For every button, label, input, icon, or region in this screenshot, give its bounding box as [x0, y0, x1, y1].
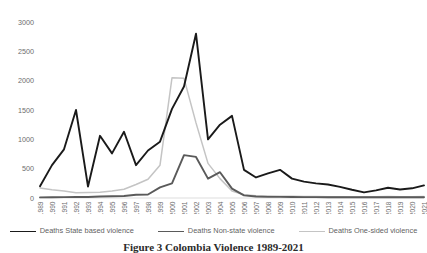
x-axis-tick-label: 2006 — [241, 201, 248, 214]
x-axis-tick-label: 1990 — [49, 201, 56, 214]
y-axis-tick-label: 3000 — [18, 18, 34, 27]
x-axis-tick-label: 1989 — [37, 201, 44, 214]
x-axis-tick-label: 2000 — [169, 201, 176, 214]
x-axis-tick-label: 1996 — [121, 201, 128, 214]
legend-label: Deaths One-sided violence — [329, 226, 418, 236]
legend-swatch-icon — [158, 231, 184, 232]
x-axis-tick-label: 1992 — [73, 201, 80, 214]
x-axis-tick-label: 2002 — [193, 201, 200, 214]
x-axis-tick-label: 2016 — [361, 201, 368, 214]
x-axis-tick-label: 1999 — [157, 201, 164, 214]
x-axis-tick-label: 2012 — [313, 201, 320, 214]
y-axis-tick-label: 500 — [22, 164, 34, 173]
series-line-1 — [40, 34, 424, 193]
x-axis-tick-label: 1997 — [133, 201, 140, 214]
x-axis-tick-label: 2019 — [397, 201, 404, 214]
x-axis-tick-label: 2020 — [409, 201, 416, 214]
y-axis-tick-label: 2000 — [18, 76, 34, 85]
x-axis-tick-label: 2018 — [385, 201, 392, 214]
legend-swatch-icon — [10, 231, 36, 232]
legend-label: Deaths Non-state violence — [188, 226, 275, 236]
x-axis-tick-label: 2010 — [289, 201, 296, 214]
x-axis-tick-label: 2007 — [253, 201, 260, 214]
x-axis-tick-label: 1994 — [97, 201, 104, 214]
x-axis-tick-label: 2021 — [421, 201, 427, 214]
x-axis-tick-label: 2008 — [265, 201, 272, 214]
y-axis-tick-label: 1000 — [18, 135, 34, 144]
x-axis-tick-label: 2005 — [229, 201, 236, 214]
chart-legend: Deaths State based violenceDeaths Non-st… — [0, 224, 427, 238]
x-axis-tick-label: 2003 — [205, 201, 212, 214]
x-axis-tick-label: 2013 — [325, 201, 332, 214]
x-axis-tick-label: 2017 — [373, 201, 380, 214]
series-line-3 — [40, 78, 424, 197]
x-axis-tick-label: 2004 — [217, 201, 224, 214]
legend-item-1[interactable]: Deaths State based violence — [10, 226, 134, 236]
legend-label: Deaths State based violence — [40, 226, 134, 236]
legend-item-3[interactable]: Deaths One-sided violence — [299, 226, 418, 236]
y-axis-tick-label: 0 — [30, 194, 34, 203]
line-chart: 0500100015002000250030001989199019911992… — [0, 0, 427, 214]
legend-swatch-icon — [299, 231, 325, 232]
x-axis-tick-label: 2001 — [181, 201, 188, 214]
x-axis-tick-label: 2009 — [277, 201, 284, 214]
x-axis-tick-label: 2014 — [337, 201, 344, 214]
chart-plot-area: 0500100015002000250030001989199019911992… — [0, 0, 427, 214]
x-axis-tick-label: 2011 — [301, 201, 308, 214]
figure-caption: Figure 3 Colombia Violence 1989-2021 — [0, 241, 427, 253]
y-axis-tick-label: 1500 — [18, 106, 34, 115]
x-axis-tick-label: 1998 — [145, 201, 152, 214]
legend-item-2[interactable]: Deaths Non-state violence — [158, 226, 275, 236]
y-axis-tick-label: 2500 — [18, 47, 34, 56]
x-axis-tick-label: 2015 — [349, 201, 356, 214]
x-axis-tick-label: 1993 — [85, 201, 92, 214]
x-axis-tick-label: 1995 — [109, 201, 116, 214]
x-axis-tick-label: 1991 — [61, 201, 68, 214]
